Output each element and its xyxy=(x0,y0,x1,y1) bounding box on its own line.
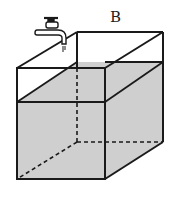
top-left-edge xyxy=(17,32,77,68)
tank-diagram xyxy=(0,0,178,198)
water-body xyxy=(17,62,163,179)
water-front-face xyxy=(17,102,105,179)
label-b: B xyxy=(110,8,121,26)
